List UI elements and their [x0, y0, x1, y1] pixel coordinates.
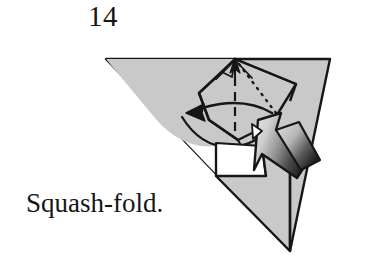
origami-step-figure: 14 — [0, 0, 380, 259]
step-caption: Squash-fold. — [26, 190, 163, 217]
origami-diagram — [0, 0, 380, 259]
